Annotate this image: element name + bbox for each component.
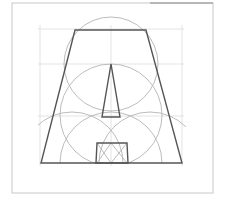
diagram-canvas: Geometric construction: trapezoid with i…: [0, 0, 230, 207]
guide-lines: [38, 25, 184, 166]
outer-frame: [12, 3, 213, 193]
construction-drawing: [0, 0, 230, 207]
